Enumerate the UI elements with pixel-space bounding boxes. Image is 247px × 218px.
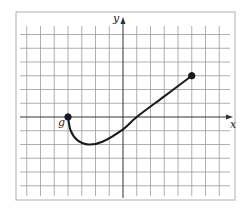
function-label-g: g <box>58 116 65 129</box>
y-axis-label: y <box>112 12 120 25</box>
endpoint-dot <box>65 114 71 120</box>
x-axis-label: x <box>230 118 237 131</box>
function-graph: y x g <box>0 0 247 218</box>
endpoint-dot <box>189 73 195 79</box>
